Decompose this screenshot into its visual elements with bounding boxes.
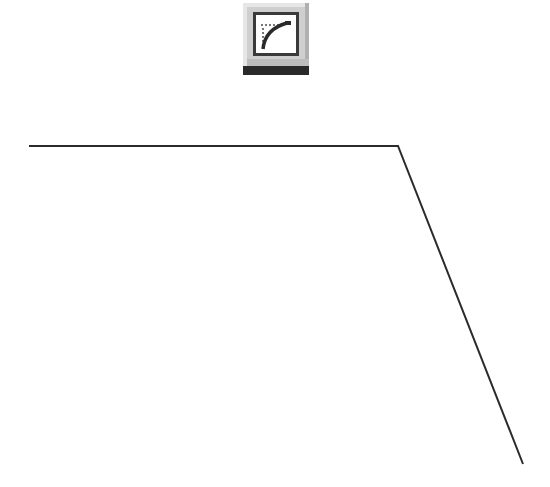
bent-line-shape (0, 0, 550, 487)
